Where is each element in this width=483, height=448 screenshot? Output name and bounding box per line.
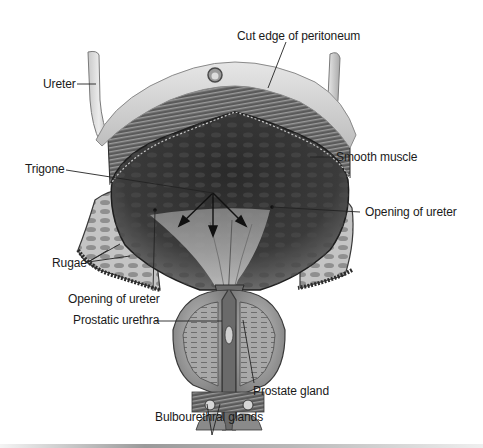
bladder-illustration bbox=[0, 0, 483, 448]
label-cut-edge-of-peritoneum: Cut edge of peritoneum bbox=[237, 29, 360, 43]
label-prostate-gland: Prostate gland bbox=[253, 384, 329, 398]
label-ureter: Ureter bbox=[43, 77, 76, 91]
label-prostatic-urethra: Prostatic urethra bbox=[73, 313, 159, 327]
page-edge-shadow bbox=[0, 444, 483, 448]
bulbourethral-gland-left bbox=[205, 400, 215, 410]
label-opening-of-ureter-left: Opening of ureter bbox=[68, 292, 160, 306]
label-trigone: Trigone bbox=[25, 162, 65, 176]
label-bulbourethral-glands: Bulbourethral glands bbox=[155, 410, 263, 424]
label-opening-of-ureter-right: Opening of ureter bbox=[365, 205, 457, 219]
bulbourethral-gland-right bbox=[243, 400, 253, 410]
label-smooth-muscle: Smooth muscle bbox=[336, 150, 417, 164]
anatomy-figure: Cut edge of peritoneum Ureter Smooth mus… bbox=[0, 0, 483, 448]
label-rugae: Rugae bbox=[52, 256, 87, 270]
